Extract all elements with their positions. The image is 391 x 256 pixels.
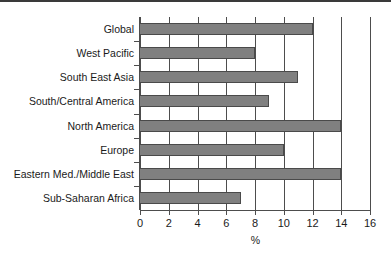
y-axis-tick bbox=[134, 41, 140, 42]
x-axis-tick-label: 10 bbox=[269, 217, 299, 230]
y-axis-tick bbox=[134, 186, 140, 187]
x-axis-tick-14 bbox=[341, 210, 342, 215]
category-label: Sub-Saharan Africa bbox=[0, 192, 134, 204]
x-axis-tick-label: 16 bbox=[355, 217, 385, 230]
x-axis-tick-8 bbox=[255, 210, 256, 215]
bar bbox=[140, 71, 298, 83]
category-label: North America bbox=[0, 120, 134, 132]
x-axis-tick-label: 12 bbox=[298, 217, 328, 230]
bar-row bbox=[140, 168, 341, 180]
y-axis-tick bbox=[134, 162, 140, 163]
x-axis-tick-12 bbox=[313, 210, 314, 215]
y-axis-tick bbox=[134, 114, 140, 115]
bar bbox=[140, 120, 341, 132]
x-axis-tick-10 bbox=[284, 210, 285, 215]
bar bbox=[140, 23, 313, 35]
bar bbox=[140, 47, 255, 59]
category-label: South/Central America bbox=[0, 95, 134, 107]
bar bbox=[140, 95, 269, 107]
category-label: Global bbox=[0, 23, 134, 35]
bar-row bbox=[140, 71, 298, 83]
x-axis-tick-6 bbox=[226, 210, 227, 215]
bar-row bbox=[140, 192, 241, 204]
x-axis-tick-16 bbox=[370, 210, 371, 215]
bar-row bbox=[140, 144, 284, 156]
y-axis-tick bbox=[134, 138, 140, 139]
gridline-4 bbox=[198, 17, 199, 210]
x-axis-tick-label: 0 bbox=[125, 217, 155, 230]
x-axis-tick-4 bbox=[198, 210, 199, 215]
gridline-16 bbox=[370, 17, 371, 210]
bar-row bbox=[140, 23, 313, 35]
x-axis-tick-label: 8 bbox=[240, 217, 270, 230]
category-label: South East Asia bbox=[0, 71, 134, 83]
bar bbox=[140, 168, 341, 180]
gridline-8 bbox=[255, 17, 256, 210]
y-axis-tick bbox=[134, 65, 140, 66]
category-label: Eastern Med./Middle East bbox=[0, 168, 134, 180]
gridline-2 bbox=[169, 17, 170, 210]
x-axis-tick-label: 4 bbox=[183, 217, 213, 230]
bar-row bbox=[140, 120, 341, 132]
x-axis-tick-label: 6 bbox=[211, 217, 241, 230]
gridline-14 bbox=[341, 17, 342, 210]
gridline-12 bbox=[313, 17, 314, 210]
bar bbox=[140, 144, 284, 156]
category-label: Europe bbox=[0, 144, 134, 156]
x-axis-title: % bbox=[140, 234, 371, 246]
category-axis-labels: GlobalWest PacificSouth East AsiaSouth/C… bbox=[0, 17, 134, 210]
bar-row bbox=[140, 47, 255, 59]
category-label: West Pacific bbox=[0, 47, 134, 59]
plot-area bbox=[140, 17, 370, 210]
bar-row bbox=[140, 95, 269, 107]
y-axis-tick bbox=[134, 89, 140, 90]
x-axis-tick-0 bbox=[140, 210, 141, 215]
gridline-6 bbox=[226, 17, 227, 210]
bar-chart-figure: GlobalWest PacificSouth East AsiaSouth/C… bbox=[0, 0, 391, 256]
x-axis-tick-label: 2 bbox=[154, 217, 184, 230]
x-axis-tick-2 bbox=[169, 210, 170, 215]
x-axis-tick-label: 14 bbox=[326, 217, 356, 230]
gridline-10 bbox=[284, 17, 285, 210]
gridline-0 bbox=[140, 17, 141, 210]
bar bbox=[140, 192, 241, 204]
